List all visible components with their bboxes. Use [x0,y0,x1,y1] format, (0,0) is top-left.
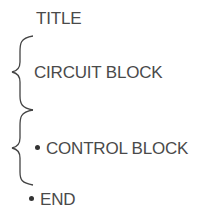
end-label: END [40,190,75,209]
braces [0,0,210,219]
end-item: END [29,190,75,210]
brace-icon [12,36,33,110]
bullet-icon [35,145,40,150]
control-block-item: CONTROL BLOCK [35,139,188,159]
brace-icon [12,110,33,185]
control-block-label: CONTROL BLOCK [46,139,188,158]
bullet-icon [29,196,34,201]
circuit-block-label: CIRCUIT BLOCK [34,63,162,83]
title-label: TITLE [36,9,81,29]
